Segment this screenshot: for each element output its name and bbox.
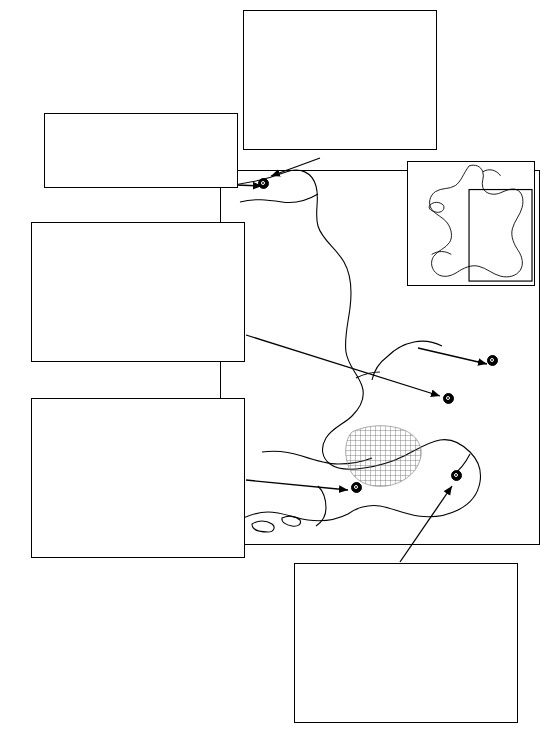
chart-panel-chelmer: [31, 222, 245, 362]
site-marker-arun[interactable]: [351, 482, 362, 493]
site-marker-aire[interactable]: [258, 178, 269, 189]
y-axis-title: [2, 0, 18, 204]
chart-panel-stour-essex: [243, 10, 437, 150]
chart-panel-stour-kent: [294, 563, 518, 723]
inset-map-great-britain: [407, 161, 535, 286]
site-marker-stour-essex[interactable]: [487, 355, 498, 366]
figure-root: [0, 0, 549, 734]
chart-panel-arun: [31, 398, 245, 558]
site-marker-stour-kent[interactable]: [451, 470, 462, 481]
map-panel: [220, 170, 540, 545]
chart-panel-aire: [44, 113, 238, 188]
site-marker-chelmer[interactable]: [443, 393, 454, 404]
inset-coastline: [408, 162, 534, 285]
